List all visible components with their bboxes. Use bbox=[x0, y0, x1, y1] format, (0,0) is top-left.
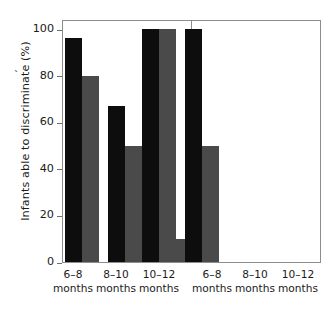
y-tick-label: 40 bbox=[40, 162, 54, 175]
bar-left-panel-0-light bbox=[82, 76, 99, 262]
bar-right-panel-1-dark bbox=[185, 29, 202, 262]
x-label-unit: months bbox=[264, 282, 332, 296]
y-tick-label: 80 bbox=[40, 69, 54, 82]
bar-left-panel-1-light bbox=[125, 146, 142, 263]
y-tick-label: 100 bbox=[33, 22, 54, 35]
plot-area bbox=[62, 20, 321, 263]
bar-left-panel-0-dark bbox=[65, 38, 82, 262]
bar-chart-figure: ‘ Infants able to discriminate (%) 02040… bbox=[0, 0, 333, 310]
y-tick-label: 60 bbox=[40, 115, 54, 128]
y-axis-title: ‘ Infants able to discriminate (%) bbox=[14, 0, 36, 262]
y-tick-label: 0 bbox=[47, 255, 54, 268]
bar-left-panel-1-dark bbox=[108, 106, 125, 262]
x-label-right-2: 10–12months bbox=[264, 268, 332, 295]
y-tick-label: 20 bbox=[40, 208, 54, 221]
bar-right-panel-0-light bbox=[159, 29, 176, 262]
y-axis-title-text: Infants able to discriminate (%) bbox=[19, 41, 32, 221]
bar-right-panel-1-light bbox=[202, 146, 219, 263]
x-label-range: 10–12 bbox=[264, 268, 332, 282]
bar-right-panel-0-dark bbox=[142, 29, 159, 262]
